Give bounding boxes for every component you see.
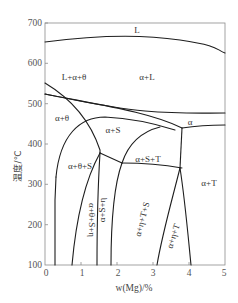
region-label-alpha-S-T: α+S+T <box>135 154 161 164</box>
tie-theta-S-line <box>100 153 122 163</box>
eta-T-left-line <box>157 168 180 265</box>
region-label-alpha-S: α+S <box>106 125 121 135</box>
y-axis: 700 600 500 400 300 200 100 温度/℃ <box>12 18 48 270</box>
y-tick-label: 300 <box>28 179 43 189</box>
S-T-vertical-line <box>180 128 182 168</box>
region-label-alpha-theta-S-eta: α+θ+S+η <box>87 203 97 237</box>
y-tick-label: 400 <box>28 139 43 149</box>
x-tick-label: 1 <box>80 268 85 278</box>
eta-T-right-line <box>180 168 191 265</box>
phase-diagram-chart: 700 600 500 400 300 200 100 温度/℃ 0 1 2 3… <box>0 0 238 303</box>
y-tick-label: 500 <box>28 99 43 109</box>
region-label-alpha: α <box>188 117 193 127</box>
y-tick-label: 200 <box>28 220 43 230</box>
x-axis: 0 1 2 3 4 5 w(Mg)/% <box>44 262 227 294</box>
region-label-alpha-T: α+T <box>201 178 217 188</box>
region-label-alpha-theta: α+θ <box>55 113 69 123</box>
x-axis-title: w(Mg)/% <box>116 283 153 294</box>
region-label-alpha-S-eta: α+S+η <box>97 197 107 222</box>
x-tick-label: 4 <box>187 268 192 278</box>
region-label-alpha-eta-T-S: α+η+T+S <box>133 201 152 238</box>
x-tick-label: 0 <box>44 268 49 278</box>
x-tick-label: 5 <box>222 268 227 278</box>
x-tick-label: 2 <box>116 268 121 278</box>
region-label-L: L <box>134 25 140 35</box>
y-tick-label: 600 <box>28 58 43 68</box>
alpha-theta-S-left-line <box>55 177 56 265</box>
theta-solvus-line <box>45 83 100 153</box>
region-label-alpha-eta-T: α+η+T <box>165 222 182 249</box>
y-tick-label: 100 <box>28 260 43 270</box>
region-label-alpha-L: α+L <box>139 72 154 82</box>
x-tick-label: 3 <box>151 268 156 278</box>
eta-boundary-3-line <box>111 163 122 265</box>
region-label-alpha-theta-S: α+θ+S <box>68 161 92 171</box>
y-tick-label: 700 <box>28 18 43 28</box>
liquidus-line <box>45 36 225 53</box>
y-axis-title: 温度/℃ <box>12 150 23 181</box>
region-label-L-alpha-theta: L+α+θ <box>62 72 87 82</box>
